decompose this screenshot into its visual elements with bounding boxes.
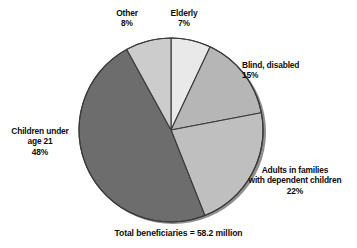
pie-chart-canvas bbox=[0, 0, 357, 248]
slice-callout-adults: Adults in families with dependent childr… bbox=[236, 165, 354, 196]
slice-callout-children-label-line2: age 21 bbox=[2, 136, 78, 146]
pie-chart-figure: Other 8% Elderly 7% Blind, disabled 15% … bbox=[0, 0, 357, 248]
slice-callout-blind-disabled-label: Blind, disabled bbox=[242, 60, 338, 70]
slice-callout-other: Other 8% bbox=[99, 8, 155, 29]
slice-callout-other-value: 8% bbox=[99, 18, 155, 28]
slice-callout-elderly: Elderly 7% bbox=[156, 8, 212, 29]
slice-callout-blind-disabled-value: 15% bbox=[242, 70, 338, 80]
slice-callout-elderly-label: Elderly bbox=[156, 8, 212, 18]
slice-callout-children-label-line1: Children under bbox=[2, 126, 78, 136]
slice-callout-adults-label-line2: with dependent children bbox=[236, 175, 354, 185]
slice-callout-adults-label-line1: Adults in families bbox=[236, 165, 354, 175]
slice-callout-children: Children under age 21 48% bbox=[2, 126, 78, 157]
slice-callout-elderly-value: 7% bbox=[156, 18, 212, 28]
slice-callout-blind-disabled: Blind, disabled 15% bbox=[242, 60, 338, 81]
slice-callout-children-value: 48% bbox=[2, 147, 78, 157]
chart-footnote: Total beneficiaries = 58.2 million bbox=[0, 228, 357, 238]
slice-callout-adults-value: 22% bbox=[236, 186, 354, 196]
slice-callout-other-label: Other bbox=[99, 8, 155, 18]
